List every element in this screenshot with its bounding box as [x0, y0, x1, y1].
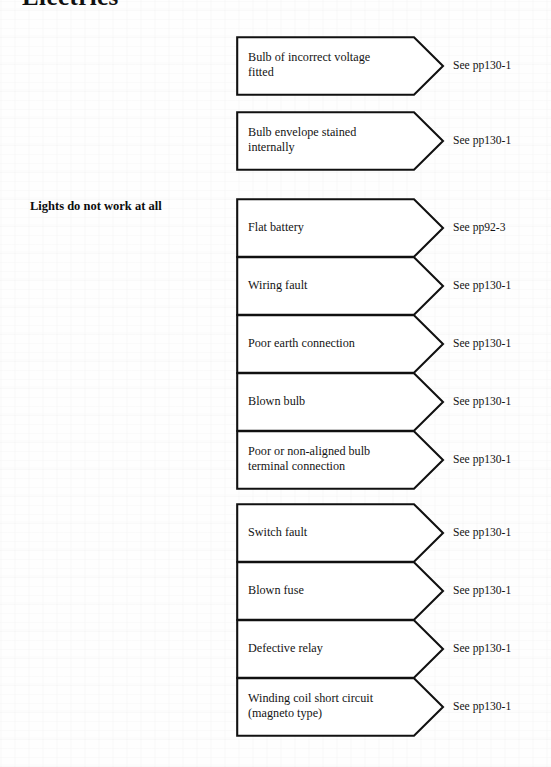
cause-row: Flat batterySee pp92-3: [236, 198, 551, 256]
cause-label: Flat battery: [248, 198, 426, 256]
cause-label: Blown fuse: [248, 561, 426, 619]
cause-row: Defective relaySee pp130-1: [236, 619, 551, 677]
cause-reference: See pp130-1: [453, 111, 511, 169]
cause-row: Bulb of incorrect voltage fittedSee pp13…: [236, 36, 551, 94]
cause-row: Winding coil short circuit (magneto type…: [236, 677, 551, 735]
cause-row: Blown bulbSee pp130-1: [236, 372, 551, 430]
cause-label: Poor or non-aligned bulb terminal connec…: [248, 430, 426, 488]
cause-label: Defective relay: [248, 619, 426, 677]
cause-reference: See pp130-1: [453, 430, 511, 488]
cause-reference: See pp130-1: [453, 561, 511, 619]
cause-row: Poor earth connectionSee pp130-1: [236, 314, 551, 372]
cause-row: Blown fuseSee pp130-1: [236, 561, 551, 619]
cause-list: Bulb of incorrect voltage fittedSee pp13…: [0, 0, 551, 767]
cause-label: Winding coil short circuit (magneto type…: [248, 677, 426, 735]
cause-reference: See pp130-1: [453, 372, 511, 430]
cause-label: Switch fault: [248, 503, 426, 561]
cause-reference: See pp130-1: [453, 677, 511, 735]
cause-label: Poor earth connection: [248, 314, 426, 372]
cause-label: Blown bulb: [248, 372, 426, 430]
cause-reference: See pp92-3: [453, 198, 505, 256]
cause-row: Switch faultSee pp130-1: [236, 503, 551, 561]
cause-reference: See pp130-1: [453, 503, 511, 561]
cause-label: Wiring fault: [248, 256, 426, 314]
cause-row: Poor or non-aligned bulb terminal connec…: [236, 430, 551, 488]
cause-reference: See pp130-1: [453, 619, 511, 677]
cause-reference: See pp130-1: [453, 314, 511, 372]
cause-reference: See pp130-1: [453, 36, 511, 94]
cause-label: Bulb envelope stained internally: [248, 111, 426, 169]
cause-reference: See pp130-1: [453, 256, 511, 314]
cause-row: Bulb envelope stained internallySee pp13…: [236, 111, 551, 169]
cause-row: Wiring faultSee pp130-1: [236, 256, 551, 314]
cause-label: Bulb of incorrect voltage fitted: [248, 36, 426, 94]
branch-label-lights-do-not-work: Lights do not work at all: [30, 199, 230, 214]
